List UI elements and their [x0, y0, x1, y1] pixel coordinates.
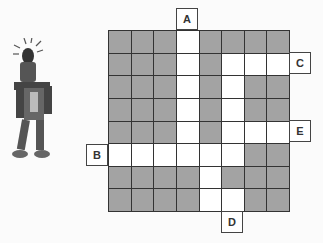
exit-label-text: D — [228, 216, 236, 228]
wall-cell[interactable] — [245, 144, 267, 166]
wall-cell[interactable] — [154, 122, 176, 144]
wall-cell[interactable] — [177, 167, 199, 189]
path-cell[interactable] — [177, 31, 199, 53]
path-cell[interactable] — [109, 144, 131, 166]
path-cell[interactable] — [200, 189, 222, 211]
exit-label-d[interactable]: D — [221, 211, 243, 233]
exit-label-b[interactable]: B — [86, 144, 108, 166]
path-cell[interactable] — [222, 99, 244, 121]
wall-cell[interactable] — [267, 189, 289, 211]
exit-label-text: A — [183, 13, 191, 25]
wall-cell[interactable] — [245, 189, 267, 211]
wall-cell[interactable] — [132, 167, 154, 189]
exit-label-text: C — [296, 57, 304, 69]
wall-cell[interactable] — [132, 54, 154, 76]
wall-cell[interactable] — [200, 54, 222, 76]
wall-cell[interactable] — [154, 76, 176, 98]
wall-cell[interactable] — [245, 167, 267, 189]
wall-cell[interactable] — [267, 76, 289, 98]
wall-cell[interactable] — [245, 99, 267, 121]
path-cell[interactable] — [222, 144, 244, 166]
wall-cell[interactable] — [109, 189, 131, 211]
exit-label-text: E — [296, 125, 303, 137]
wall-cell[interactable] — [200, 76, 222, 98]
exit-label-text: B — [93, 149, 101, 161]
path-cell[interactable] — [132, 144, 154, 166]
wall-cell[interactable] — [154, 167, 176, 189]
wall-cell[interactable] — [200, 122, 222, 144]
exit-label-a[interactable]: A — [176, 8, 198, 30]
wall-cell[interactable] — [267, 167, 289, 189]
wall-cell[interactable] — [267, 99, 289, 121]
path-cell[interactable] — [154, 144, 176, 166]
wall-cell[interactable] — [154, 31, 176, 53]
path-cell[interactable] — [177, 144, 199, 166]
path-cell[interactable] — [222, 76, 244, 98]
path-cell[interactable] — [222, 54, 244, 76]
wall-cell[interactable] — [109, 99, 131, 121]
wall-cell[interactable] — [154, 54, 176, 76]
wall-cell[interactable] — [109, 167, 131, 189]
path-cell[interactable] — [267, 122, 289, 144]
wall-cell[interactable] — [267, 144, 289, 166]
wall-cell[interactable] — [245, 31, 267, 53]
wall-cell[interactable] — [132, 122, 154, 144]
wall-cell[interactable] — [132, 189, 154, 211]
wall-cell[interactable] — [222, 167, 244, 189]
path-cell[interactable] — [177, 76, 199, 98]
wall-cell[interactable] — [109, 54, 131, 76]
path-cell[interactable] — [177, 54, 199, 76]
wall-cell[interactable] — [222, 31, 244, 53]
path-cell[interactable] — [222, 122, 244, 144]
wall-cell[interactable] — [154, 189, 176, 211]
wall-cell[interactable] — [200, 31, 222, 53]
wall-cell[interactable] — [132, 76, 154, 98]
wall-cell[interactable] — [267, 31, 289, 53]
path-cell[interactable] — [245, 122, 267, 144]
exit-label-c[interactable]: C — [289, 52, 311, 74]
wall-cell[interactable] — [109, 122, 131, 144]
path-cell[interactable] — [222, 189, 244, 211]
path-cell[interactable] — [267, 54, 289, 76]
wall-cell[interactable] — [132, 99, 154, 121]
exit-label-e[interactable]: E — [289, 120, 311, 142]
path-cell[interactable] — [177, 122, 199, 144]
path-cell[interactable] — [177, 99, 199, 121]
wall-cell[interactable] — [245, 76, 267, 98]
path-cell[interactable] — [245, 54, 267, 76]
path-cell[interactable] — [200, 144, 222, 166]
wall-cell[interactable] — [177, 189, 199, 211]
wall-cell[interactable] — [109, 31, 131, 53]
robot-icon — [6, 38, 60, 168]
wall-cell[interactable] — [132, 31, 154, 53]
maze-grid — [108, 30, 290, 212]
path-cell[interactable] — [200, 167, 222, 189]
wall-cell[interactable] — [154, 99, 176, 121]
wall-cell[interactable] — [109, 76, 131, 98]
wall-cell[interactable] — [200, 99, 222, 121]
